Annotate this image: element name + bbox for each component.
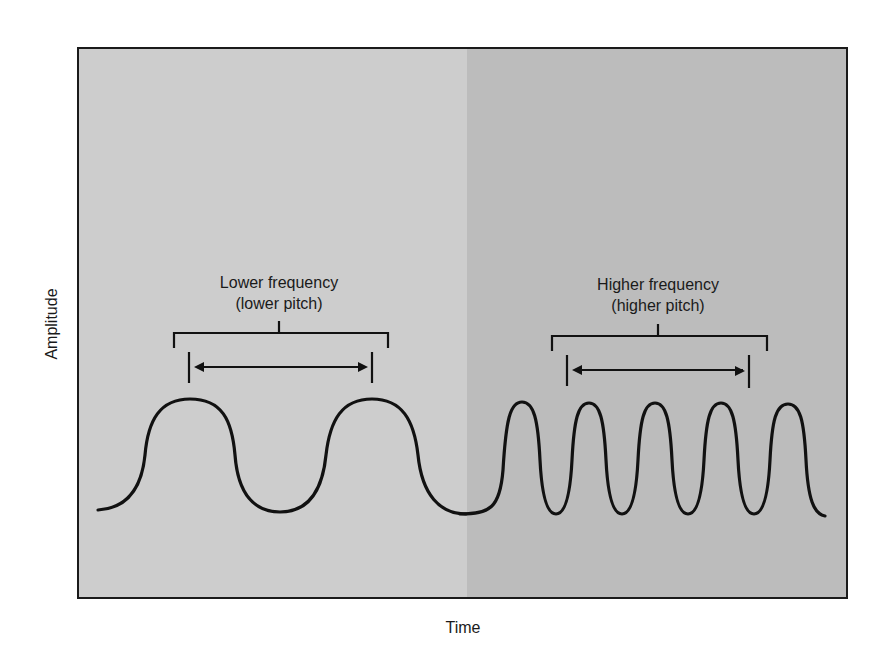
lower-pitch-subtitle: (lower pitch) (220, 293, 338, 314)
higher-frequency-label: Higher frequency (higher pitch) (597, 274, 719, 316)
low-wavelength-arrow (189, 352, 372, 383)
higher-frequency-title: Higher frequency (597, 274, 719, 295)
lower-frequency-label: Lower frequency (lower pitch) (220, 272, 338, 314)
x-axis-label: Time (446, 619, 481, 637)
high-frequency-wave (460, 402, 825, 516)
low-frequency-wave (98, 399, 466, 514)
high-wavelength-arrow (567, 355, 749, 388)
y-axis-label: Amplitude (43, 288, 61, 359)
lower-frequency-title: Lower frequency (220, 272, 338, 293)
low-frequency-bracket (174, 321, 388, 348)
higher-pitch-subtitle: (higher pitch) (597, 295, 719, 316)
wave-diagram-graphics (0, 0, 894, 647)
high-frequency-bracket (552, 324, 767, 351)
